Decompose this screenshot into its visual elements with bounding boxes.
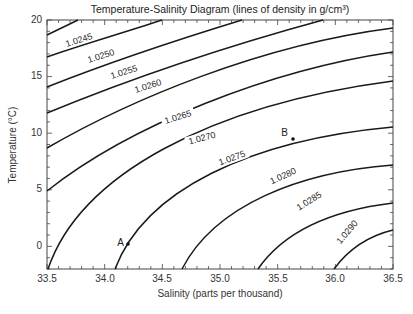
y-tick-label: 20 bbox=[31, 14, 43, 25]
contour-1-0275 bbox=[115, 127, 393, 269]
y-tick-label: 10 bbox=[31, 127, 43, 138]
contour-1-0285 bbox=[258, 203, 393, 269]
y-tick-label: 0 bbox=[36, 240, 42, 251]
point-a-label: A bbox=[117, 237, 124, 248]
x-tick-label: 36.0 bbox=[325, 273, 345, 284]
y-tick-label: 15 bbox=[31, 70, 43, 81]
ts-diagram-chart: Temperature-Salinity Diagram (lines of d… bbox=[0, 0, 413, 314]
x-tick-label: 34.5 bbox=[152, 273, 172, 284]
contour-label: 1.0265 bbox=[163, 108, 192, 126]
point-b-marker bbox=[291, 137, 295, 141]
y-tick-label: 5 bbox=[36, 183, 42, 194]
y-axis-tick-labels: 0 5 10 15 20 bbox=[31, 14, 43, 251]
chart-title: Temperature-Salinity Diagram (lines of d… bbox=[91, 3, 350, 15]
contour-label: 1.0260 bbox=[133, 77, 162, 95]
point-a-marker bbox=[126, 242, 130, 246]
contour-labels: 1.0245 1.0250 1.0255 1.0260 1.0265 1.027… bbox=[61, 30, 361, 248]
point-b: B bbox=[281, 127, 294, 141]
contour-label: 1.0280 bbox=[268, 166, 297, 187]
x-tick-label: 33.5 bbox=[37, 273, 57, 284]
contour-1-0240 bbox=[47, 20, 78, 35]
point-b-label: B bbox=[281, 127, 288, 138]
x-tick-label: 36.5 bbox=[383, 273, 403, 284]
y-axis-label: Temperature (°C) bbox=[7, 107, 18, 184]
contour-label: 1.0290 bbox=[334, 218, 359, 246]
contour-1-0280 bbox=[182, 165, 393, 269]
x-tick-label: 35.0 bbox=[210, 273, 230, 284]
contour-label: 1.0270 bbox=[187, 130, 216, 147]
point-a: A bbox=[117, 237, 129, 248]
x-axis-tick-labels: 33.5 34.0 34.5 35.0 35.5 36.0 36.5 bbox=[37, 273, 403, 284]
x-axis-label: Salinity (parts per thousand) bbox=[157, 288, 282, 299]
x-tick-label: 35.5 bbox=[268, 273, 288, 284]
contour-1-0265 bbox=[47, 52, 393, 191]
contour-label: 1.0285 bbox=[295, 189, 324, 212]
contour-label: 1.0255 bbox=[109, 63, 138, 81]
contour-1-0250 bbox=[47, 20, 242, 87]
contour-1-0260 bbox=[47, 28, 393, 148]
x-tick-label: 34.0 bbox=[95, 273, 115, 284]
